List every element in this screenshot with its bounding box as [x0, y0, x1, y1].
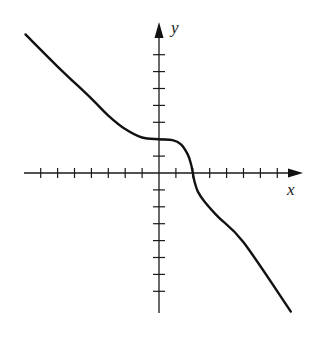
axes — [24, 28, 298, 313]
y-axis-label: y — [171, 18, 179, 38]
x-axis-arrow-icon — [288, 169, 303, 178]
chart-plot — [0, 0, 328, 339]
x-axis-label: x — [287, 180, 295, 200]
y-axis-arrow-icon — [155, 22, 164, 38]
